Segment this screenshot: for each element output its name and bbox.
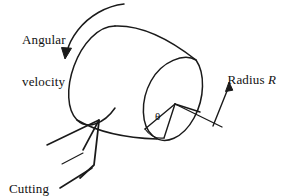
cutting-tool-label: Cutting tool <box>9 154 49 196</box>
cutting-tool-leader-line <box>62 153 83 164</box>
angular-velocity-label: Angular velocity <box>22 5 66 117</box>
cylinder-left-face <box>69 26 115 125</box>
cylinder-top-edge <box>115 26 196 60</box>
figure-canvas: Angular velocity Radius R Cutting tool θ <box>0 0 281 196</box>
angular-velocity-line-1: Angular <box>22 33 66 47</box>
cutting-tool-line-1: Cutting <box>9 182 49 196</box>
radius-label-word: Radius <box>228 72 268 87</box>
cutting-tool-shape <box>47 120 99 188</box>
theta-angle-label: θ <box>155 110 160 122</box>
radius-label-symbol: R <box>268 72 276 87</box>
cylinder-right-face <box>143 58 202 141</box>
radius-label: Radius R <box>214 59 276 101</box>
angular-velocity-arrow <box>62 4 125 59</box>
angular-velocity-line-2: velocity <box>22 75 66 89</box>
